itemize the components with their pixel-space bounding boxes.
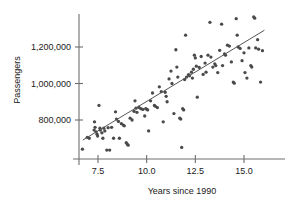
data-point [81, 148, 84, 151]
data-point [180, 146, 183, 149]
data-point [221, 64, 224, 67]
data-point [112, 137, 115, 140]
data-point [242, 51, 245, 54]
data-point [203, 61, 206, 64]
trend-line [83, 30, 265, 140]
data-point [254, 46, 257, 49]
data-point [201, 73, 204, 76]
data-point [256, 38, 259, 41]
data-point [243, 71, 246, 74]
data-point [172, 112, 175, 115]
data-point [208, 21, 211, 24]
data-point [135, 111, 138, 114]
data-point [117, 120, 120, 123]
data-point [240, 59, 243, 62]
data-point [106, 126, 109, 129]
scatter-plot-figure: 800,0001,000,0001,200,0007.510.012.515.0… [0, 0, 290, 203]
data-point [103, 129, 106, 132]
data-point [133, 99, 136, 102]
data-point [245, 76, 248, 79]
data-point [195, 65, 198, 68]
data-point [174, 48, 177, 51]
data-point [110, 126, 113, 129]
data-point [235, 17, 238, 20]
data-point [97, 104, 100, 107]
data-point [209, 55, 212, 58]
data-point [101, 137, 104, 140]
data-point [214, 64, 217, 67]
data-point [105, 148, 108, 151]
data-point [250, 65, 253, 68]
data-point [261, 49, 264, 52]
data-point [141, 108, 144, 111]
data-point [247, 46, 250, 49]
data-point [167, 77, 170, 80]
data-point [96, 134, 99, 137]
data-point [179, 117, 182, 120]
data-point [204, 71, 207, 74]
data-point [143, 114, 146, 117]
y-axis-tick-label: 1,000,000 [31, 79, 71, 89]
data-point [220, 23, 223, 26]
data-point [238, 47, 241, 50]
data-point [108, 148, 111, 151]
data-point [206, 54, 209, 57]
data-point [228, 44, 231, 47]
data-point [192, 68, 195, 71]
data-point [236, 33, 239, 36]
data-point [196, 96, 199, 99]
data-point [147, 129, 150, 132]
data-point [151, 91, 154, 94]
data-point [200, 55, 203, 58]
data-point [114, 110, 117, 113]
data-point [182, 108, 185, 111]
data-point [118, 137, 121, 140]
data-point [184, 33, 187, 36]
data-point [164, 95, 167, 98]
data-point [175, 65, 178, 68]
data-point [257, 48, 260, 51]
x-axis-tick-label: 12.5 [187, 166, 205, 176]
y-axis-title: Passengers [12, 56, 22, 104]
data-point [253, 17, 256, 20]
x-axis-tick-label: 15.0 [235, 166, 253, 176]
regression-line [83, 30, 265, 140]
data-point [259, 80, 262, 83]
data-point [93, 126, 96, 129]
data-point [156, 106, 159, 109]
data-point [93, 120, 96, 123]
data-point [158, 85, 161, 88]
data-point [191, 76, 194, 79]
data-point [169, 69, 172, 72]
data-point [211, 65, 214, 68]
data-point [230, 60, 233, 63]
y-axis-tick-label: 800,000 [38, 115, 71, 125]
data-point [216, 71, 219, 74]
x-axis-tick-label: 10.0 [138, 166, 156, 176]
data-point [218, 49, 221, 52]
chart-canvas: 800,0001,000,0001,200,0007.510.012.515.0… [0, 0, 290, 203]
data-point [194, 56, 197, 59]
data-point [176, 75, 179, 78]
y-axis-tick-label: 1,200,000 [31, 42, 71, 52]
data-point [170, 82, 173, 85]
data-point [130, 118, 133, 121]
data-point [146, 108, 149, 111]
data-point [127, 144, 130, 147]
x-axis-title: Years since 1990 [148, 186, 217, 196]
x-axis-tick-label: 7.5 [92, 166, 105, 176]
data-point [233, 81, 236, 84]
data-point [100, 131, 103, 134]
data-point [165, 100, 168, 103]
data-points-group [81, 15, 264, 152]
data-point [162, 120, 165, 123]
data-point [123, 124, 126, 127]
